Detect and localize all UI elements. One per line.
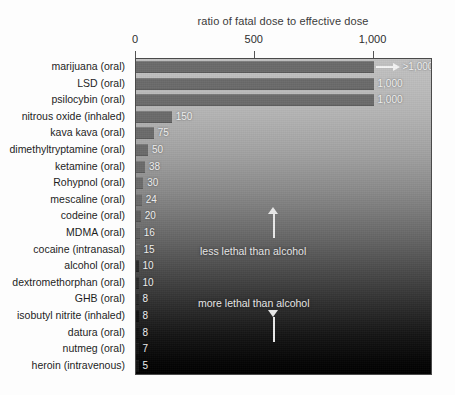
bar-value-label: 150	[176, 111, 193, 123]
bar-row: 150	[136, 109, 431, 126]
bar-row: 7	[136, 341, 431, 358]
bar-row: 8	[136, 308, 431, 325]
bar	[136, 94, 374, 106]
x-tick-mark	[373, 51, 374, 58]
bar-value-label: 20	[145, 210, 156, 222]
overflow-arrow-icon	[376, 63, 400, 72]
category-label: codeine (oral)	[0, 207, 130, 224]
bar-row: 75	[136, 125, 431, 142]
bar-value-label: 38	[149, 161, 160, 173]
bar	[136, 293, 139, 305]
category-label: dextromethorphan (oral)	[0, 274, 130, 291]
x-tick-label: 500	[245, 33, 263, 45]
category-label: marijuana (oral)	[0, 58, 130, 75]
category-label: GHB (oral)	[0, 290, 130, 307]
bar	[136, 327, 139, 339]
bar	[136, 343, 139, 355]
bar-value-label: 50	[152, 144, 163, 156]
bar-value-label: 10	[143, 277, 154, 289]
bar	[136, 194, 142, 206]
bar-row: 10	[136, 275, 431, 292]
category-axis-labels: marijuana (oral)LSD (oral)psilocybin (or…	[0, 58, 130, 373]
bar	[136, 111, 172, 123]
category-label: mescaline (oral)	[0, 191, 130, 208]
bar	[136, 210, 141, 222]
bar-value-label: 8	[143, 327, 149, 339]
bar-value-label: 1,000	[378, 78, 403, 90]
bar-row: 5	[136, 358, 431, 375]
category-label: Rohypnol (oral)	[0, 174, 130, 191]
bar-value-label: 30	[147, 177, 158, 189]
category-label: kava kava (oral)	[0, 124, 130, 141]
bar-row: 20	[136, 208, 431, 225]
bar	[136, 127, 154, 139]
bar-row: 24	[136, 192, 431, 209]
bar-value-label: 1,000	[378, 94, 403, 106]
bar-value-label: 10	[143, 260, 154, 272]
bar	[136, 177, 143, 189]
bar	[136, 310, 139, 322]
bar-row: 16	[136, 225, 431, 242]
category-label: ketamine (oral)	[0, 158, 130, 175]
bar-value-label: >1,000	[403, 61, 433, 73]
bar	[136, 161, 145, 173]
bar-value-label: 16	[144, 227, 155, 239]
bar-value-label: 8	[143, 310, 149, 322]
category-label: dimethyltryptamine (oral)	[0, 141, 130, 158]
category-label: nitrous oxide (inhaled)	[0, 108, 130, 125]
category-label: MDMA (oral)	[0, 224, 130, 241]
category-label: cocaine (intranasal)	[0, 241, 130, 258]
category-label: alcohol (oral)	[0, 257, 130, 274]
bar-row: 8	[136, 325, 431, 342]
x-tick-label: 0	[132, 33, 138, 45]
category-label: LSD (oral)	[0, 75, 130, 92]
annotation-less-lethal: less lethal than alcohol	[200, 245, 306, 257]
bar-value-label: 7	[143, 343, 149, 355]
x-tick-mark	[254, 51, 255, 58]
bar-row: 1,000	[136, 76, 431, 93]
bar-value-label: 15	[144, 244, 155, 256]
category-label: psilocybin (oral)	[0, 91, 130, 108]
bar-row: 38	[136, 159, 431, 176]
bar-row: 30	[136, 175, 431, 192]
bar-value-label: 8	[143, 293, 149, 305]
annotation-more-lethal: more lethal than alcohol	[198, 297, 310, 309]
plot-area: >1,0001,0001,000150755038302420161510108…	[135, 58, 432, 375]
x-tick-label: 1,000	[359, 33, 387, 45]
bar-row: 10	[136, 258, 431, 275]
bar	[136, 360, 139, 372]
bar	[136, 244, 140, 256]
bar	[136, 260, 139, 272]
category-label: heroin (intravenous)	[0, 357, 130, 374]
bar	[136, 61, 374, 73]
bar	[136, 277, 139, 289]
category-label: isobutyl nitrite (inhaled)	[0, 307, 130, 324]
bar	[136, 227, 140, 239]
bar	[136, 78, 374, 90]
category-label: datura (oral)	[0, 324, 130, 341]
bar-value-label: 5	[143, 360, 149, 372]
bar	[136, 144, 148, 156]
chart-figure: ratio of fatal dose to effective dose 05…	[0, 0, 455, 395]
bar-row: 1,000	[136, 92, 431, 109]
bar-row: 50	[136, 142, 431, 159]
category-label: nutmeg (oral)	[0, 340, 130, 357]
x-tick-mark	[135, 51, 136, 58]
bar-value-label: 24	[146, 194, 157, 206]
bar-row: >1,000	[136, 59, 431, 76]
bar-value-label: 75	[158, 127, 169, 139]
chart-title: ratio of fatal dose to effective dose	[135, 15, 431, 27]
